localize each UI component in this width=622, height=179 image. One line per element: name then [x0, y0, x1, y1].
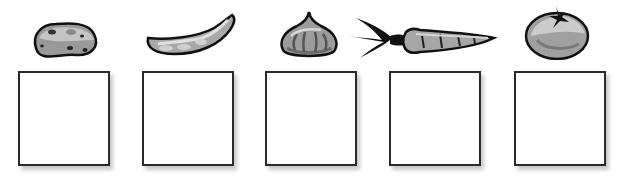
answer-box-carrot[interactable]	[389, 71, 481, 166]
pea-pod-icon	[144, 12, 240, 58]
answer-box-pea-pod[interactable]	[142, 71, 234, 166]
onion-icon	[275, 8, 343, 60]
potato-icon	[30, 20, 102, 60]
answer-box-tomato[interactable]	[514, 71, 606, 166]
carrot-icon	[346, 16, 498, 60]
answer-box-onion[interactable]	[265, 71, 357, 166]
answer-box-potato[interactable]	[18, 71, 110, 166]
tomato-icon	[523, 4, 591, 60]
